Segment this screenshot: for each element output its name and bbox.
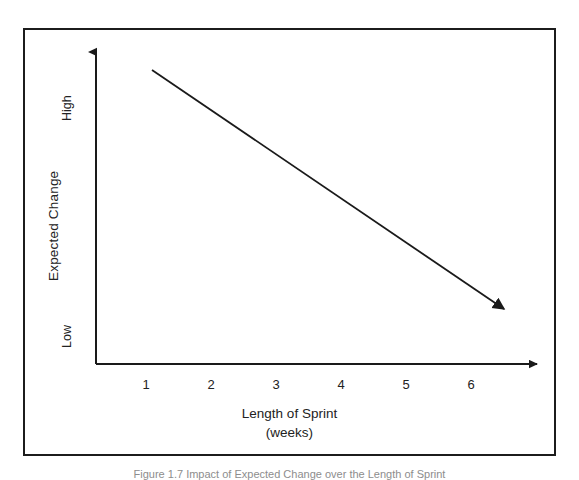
x-tick-label: 6	[458, 377, 484, 392]
x-tick-label: 1	[133, 377, 159, 392]
x-axis-title-line1: Length of Sprint	[242, 406, 337, 421]
y-tick-label-high: High	[60, 95, 74, 121]
x-axis-title: Length of Sprint (weeks)	[0, 404, 579, 442]
figure-container: Expected Change High Low 1 2 3 4 5 6 Len…	[0, 0, 579, 480]
x-tick-label: 4	[328, 377, 354, 392]
x-tick-label: 3	[263, 377, 289, 392]
x-axis-title-line2: (weeks)	[0, 423, 579, 442]
y-tick-label-low: Low	[60, 325, 74, 348]
y-axis-title: Expected Change	[46, 171, 61, 281]
x-tick-label: 2	[198, 377, 224, 392]
x-tick-label: 5	[393, 377, 419, 392]
figure-caption: Figure 1.7 Impact of Expected Change ove…	[0, 468, 579, 480]
